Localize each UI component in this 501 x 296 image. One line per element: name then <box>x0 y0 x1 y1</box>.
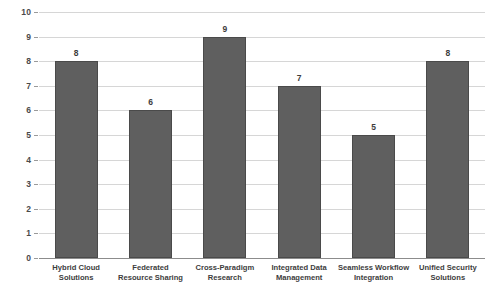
y-tick-mark <box>34 61 38 62</box>
bar-value-label: 6 <box>148 97 153 107</box>
gridline <box>39 37 485 38</box>
bar-value-label: 7 <box>297 73 302 83</box>
y-tick-mark <box>34 37 38 38</box>
x-axis-category-label: Federated Resource Sharing <box>114 263 186 282</box>
gridline <box>39 12 485 13</box>
y-tick-mark <box>34 86 38 87</box>
y-axis-tick-label: 1 <box>0 228 31 238</box>
x-axis-category-label: Hybrid Cloud Solutions <box>40 263 112 282</box>
bar <box>129 110 172 258</box>
y-axis-tick-label: 6 <box>0 105 31 115</box>
x-axis-category-label: Cross-Paradigm Research <box>189 263 261 282</box>
gridline <box>39 209 485 210</box>
bar-chart: 0123456789108Hybrid Cloud Solutions6Fede… <box>0 0 501 296</box>
y-axis-tick-label: 0 <box>0 253 31 263</box>
y-tick-mark <box>34 258 38 259</box>
y-tick-mark <box>34 184 38 185</box>
y-tick-mark <box>34 160 38 161</box>
bar <box>55 61 98 258</box>
gridline <box>39 61 485 62</box>
gridline <box>39 160 485 161</box>
bar-value-label: 8 <box>74 48 79 58</box>
y-tick-mark <box>34 12 38 13</box>
y-axis-tick-label: 4 <box>0 155 31 165</box>
chart-caption-cropped <box>0 289 501 296</box>
y-tick-mark <box>34 110 38 111</box>
y-axis-tick-label: 10 <box>0 7 31 17</box>
axis-baseline <box>39 258 485 259</box>
y-tick-mark <box>34 209 38 210</box>
y-axis-tick-label: 7 <box>0 81 31 91</box>
gridline <box>39 135 485 136</box>
x-axis-category-label: Seamless Workflow Integration <box>337 263 409 282</box>
x-axis-category-label: Unified Security Solutions <box>412 263 484 282</box>
bar-value-label: 9 <box>222 24 227 34</box>
y-axis-tick-label: 8 <box>0 56 31 66</box>
bar <box>278 86 321 258</box>
gridline <box>39 184 485 185</box>
x-axis-category-label: Integrated Data Management <box>263 263 335 282</box>
y-axis-tick-label: 5 <box>0 130 31 140</box>
plot-area <box>39 12 485 258</box>
bar-value-label: 5 <box>371 122 376 132</box>
bar <box>352 135 395 258</box>
gridline <box>39 110 485 111</box>
chart-title-cropped <box>0 0 501 6</box>
y-tick-mark <box>34 135 38 136</box>
gridline <box>39 233 485 234</box>
y-tick-mark <box>34 233 38 234</box>
bar-value-label: 8 <box>445 48 450 58</box>
y-axis-tick-label: 2 <box>0 204 31 214</box>
bar <box>203 37 246 258</box>
y-axis-tick-label: 3 <box>0 179 31 189</box>
gridline <box>39 86 485 87</box>
y-axis-tick-label: 9 <box>0 32 31 42</box>
bar <box>426 61 469 258</box>
